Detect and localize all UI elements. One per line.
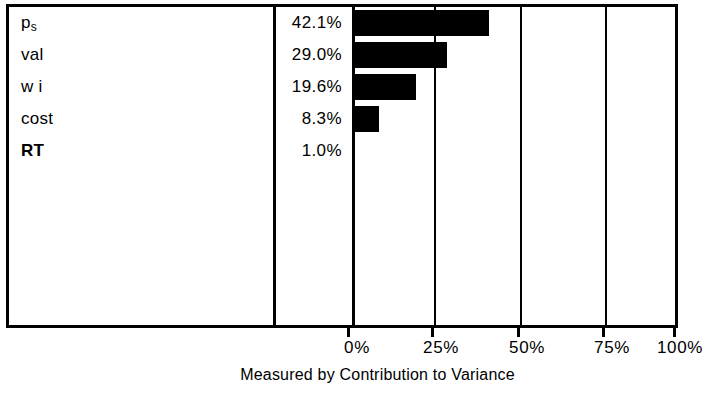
chart-rows: ps 42.1% val 29.0% w i 19.6% cost 8.3% bbox=[9, 7, 675, 167]
bar-ps bbox=[352, 10, 489, 36]
row-value-ps: 42.1% bbox=[273, 7, 349, 39]
row-label-subscript: s bbox=[31, 20, 37, 34]
row-value-wi: 19.6% bbox=[273, 71, 349, 103]
bar-track-wi bbox=[352, 74, 678, 100]
table-row: ps 42.1% bbox=[9, 7, 675, 39]
bar-wi bbox=[352, 74, 416, 100]
row-label-wi: w i bbox=[21, 71, 43, 103]
tick-mark-25 bbox=[431, 328, 434, 337]
chart-frame: ps 42.1% val 29.0% w i 19.6% cost 8.3% bbox=[6, 4, 678, 328]
table-row: w i 19.6% bbox=[9, 71, 675, 103]
tick-label-100: 100% bbox=[657, 338, 703, 358]
row-label-text: val bbox=[21, 45, 44, 64]
bar-track-cost bbox=[352, 106, 678, 132]
bar-cost bbox=[352, 106, 379, 132]
row-value-cost: 8.3% bbox=[273, 103, 349, 135]
tick-mark-0 bbox=[347, 328, 350, 337]
table-row: val 29.0% bbox=[9, 39, 675, 71]
tick-label-25: 25% bbox=[423, 338, 459, 358]
tick-label-50: 50% bbox=[509, 338, 545, 358]
tick-mark-100 bbox=[673, 328, 676, 337]
row-label-text: p bbox=[21, 13, 31, 32]
row-label-val: val bbox=[21, 39, 44, 71]
tick-label-0: 0% bbox=[344, 338, 370, 358]
bar-track-ps bbox=[352, 10, 678, 36]
row-label-text: w i bbox=[21, 77, 43, 96]
bar-rt bbox=[352, 138, 355, 164]
table-row: cost 8.3% bbox=[9, 103, 675, 135]
row-label-text: RT bbox=[21, 141, 44, 160]
row-label-rt: RT bbox=[21, 135, 44, 167]
bar-track-rt bbox=[352, 138, 678, 164]
tick-mark-75 bbox=[602, 328, 605, 337]
row-label-ps: ps bbox=[21, 7, 37, 39]
tick-label-75: 75% bbox=[594, 338, 630, 358]
bar-track-val bbox=[352, 42, 678, 68]
x-axis-title: Measured by Contribution to Variance bbox=[0, 366, 711, 384]
tick-mark-50 bbox=[517, 328, 520, 337]
row-value-rt: 1.0% bbox=[273, 135, 349, 167]
bar-val bbox=[352, 42, 447, 68]
table-row: RT 1.0% bbox=[9, 135, 675, 167]
row-label-cost: cost bbox=[21, 103, 53, 135]
row-value-val: 29.0% bbox=[273, 39, 349, 71]
row-label-text: cost bbox=[21, 109, 53, 128]
